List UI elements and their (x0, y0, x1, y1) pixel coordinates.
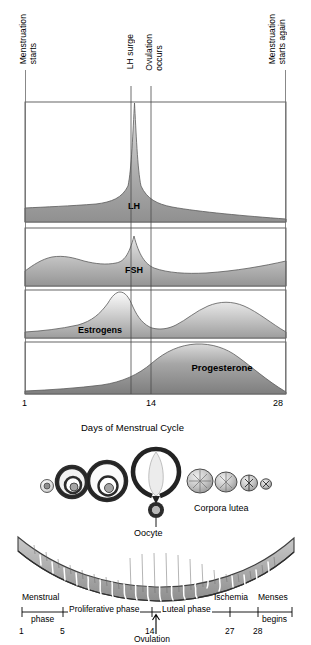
phase-label-menstrual-line2: phase (31, 614, 54, 624)
hormone-chart: LH FSH Estrogens Progesterone (25, 70, 286, 394)
day-tick-1: 1 (22, 398, 27, 408)
curve-label-lh: LH (128, 201, 140, 211)
annotation-menstruation-starts-again: Menstruation starts again (267, 14, 287, 64)
annotation-line-1: LH surge (125, 34, 135, 69)
ovulation-label: Ovulation (134, 634, 170, 644)
phase-tick-label-28: 28 (253, 626, 262, 636)
corpus-luteum-stage-1 (187, 469, 213, 493)
follicle-stage-2 (57, 467, 87, 497)
phase-label-menses: Menses (258, 592, 288, 602)
oocyte-label: Oocyte (134, 528, 163, 538)
curve-label-estrogens: Estrogens (78, 325, 122, 335)
phase-label-menstrual-line1: Menstrual (22, 592, 59, 602)
annotation-line-2: starts (28, 14, 38, 64)
annotation-line-2: occurs (154, 34, 164, 71)
annotation-line-1: Menstruation (18, 14, 28, 64)
phase-label-menses-begins: begins (262, 614, 287, 624)
phase-label-luteal: Luteal phase (161, 604, 212, 614)
follicle-stage-3 (88, 462, 126, 500)
x-axis-title: Days of Menstrual Cycle (81, 422, 184, 433)
corpora-lutea-label: Corpora lutea (194, 503, 249, 513)
annotation-ovulation-occurs: Ovulation occurs (144, 34, 164, 71)
panel-progesterone: Progesterone (25, 342, 286, 394)
ovarian-cycle-row (41, 449, 272, 527)
curve-label-fsh: FSH (125, 265, 143, 275)
oocyte (148, 502, 164, 518)
day-tick-14: 14 (146, 398, 156, 408)
corpus-luteum-stage-2 (215, 472, 237, 492)
follicle-stage-4-graafian (133, 449, 179, 504)
corpus-albicans-stage-4 (261, 479, 272, 489)
phase-label-ischemia: Ischemia (214, 592, 248, 602)
day-tick-28: 28 (273, 398, 283, 408)
annotation-menstruation-starts: Menstruation starts (18, 14, 38, 64)
menstrual-cycle-figure: LH FSH Estrogens Progesterone (0, 0, 311, 645)
annotation-line-2: starts again (277, 14, 287, 64)
endometrium-body (18, 537, 294, 601)
phase-tick-label-27: 27 (225, 626, 234, 636)
panel-lh: LH (25, 102, 286, 222)
endometrium-cross-section (18, 537, 294, 601)
corpus-albicans-stage-3 (241, 475, 258, 491)
phase-tick-label-1: 1 (19, 626, 24, 636)
panel-fsh: FSH (25, 228, 286, 286)
annotation-lh-surge: LH surge (125, 34, 135, 69)
curve-label-progesterone: Progesterone (191, 362, 252, 373)
phase-tick-label-5: 5 (60, 626, 65, 636)
phase-label-proliferative: Proliferative phase (68, 604, 140, 614)
annotation-line-1: Menstruation (267, 14, 277, 64)
panel-estrogens: Estrogens (25, 290, 286, 338)
annotation-line-1: Ovulation (144, 34, 154, 71)
follicle-stage-1 (41, 480, 54, 493)
